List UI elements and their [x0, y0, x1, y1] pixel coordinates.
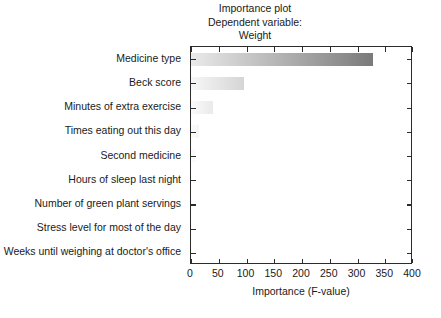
y-axis-tick [191, 132, 196, 133]
y-axis-label: Hours of sleep last night [0, 174, 186, 185]
y-axis-tick [407, 180, 412, 181]
y-axis-labels: Medicine typeBeck scoreMinutes of extra … [0, 46, 186, 264]
chart-title-block: Importance plot Dependent variable: Weig… [190, 2, 320, 43]
bars-layer [191, 47, 411, 263]
y-axis-tick [191, 156, 196, 157]
chart-title: Importance plot [190, 2, 320, 16]
x-axis-tick [274, 259, 275, 264]
bar-row [191, 47, 411, 71]
y-axis-tick [407, 253, 412, 254]
x-axis-tick [385, 47, 386, 52]
y-axis-label: Minutes of extra exercise [0, 101, 186, 112]
y-axis-tick [407, 204, 412, 205]
bar [191, 53, 373, 66]
y-axis-label: Beck score [0, 77, 186, 88]
y-axis-tick [191, 204, 196, 205]
x-axis-tick [358, 47, 359, 52]
x-axis-tick [219, 259, 220, 264]
chart-subtitle-value: Weight [190, 29, 320, 43]
y-axis-tick [407, 108, 412, 109]
y-axis-tick [191, 229, 196, 230]
y-axis-label: Second medicine [0, 150, 186, 161]
y-axis-tick [407, 229, 412, 230]
x-axis-tick [219, 47, 220, 52]
x-axis-title: Importance (F-value) [190, 285, 412, 298]
x-axis-tick [274, 47, 275, 52]
y-axis-label: Stress level for most of the day [0, 222, 186, 233]
x-axis-tick [412, 47, 413, 52]
plot-area [190, 46, 412, 264]
y-axis-tick [407, 132, 412, 133]
bar-row [191, 144, 411, 168]
x-axis-tick [358, 259, 359, 264]
x-axis-tick [191, 47, 192, 52]
y-axis-tick [191, 108, 196, 109]
bar-row [191, 71, 411, 95]
x-axis-tick-label: 400 [392, 267, 432, 279]
y-axis-tick [191, 83, 196, 84]
x-axis-tick [412, 259, 413, 264]
x-axis-tick [247, 259, 248, 264]
y-axis-tick [191, 253, 196, 254]
bar-row [191, 95, 411, 119]
x-axis-tick [302, 259, 303, 264]
x-axis-tick [247, 47, 248, 52]
x-axis-tick-labels: 050100150200250300350400 [190, 267, 412, 281]
x-axis-tick [330, 259, 331, 264]
y-axis-tick [191, 180, 196, 181]
importance-plot-figure: Importance plot Dependent variable: Weig… [0, 0, 441, 318]
y-axis-label: Medicine type [0, 53, 186, 64]
bar [191, 77, 244, 90]
y-axis-tick [407, 83, 412, 84]
y-axis-label: Times eating out this day [0, 125, 186, 136]
x-axis-tick [385, 259, 386, 264]
x-axis-tick [302, 47, 303, 52]
y-axis-tick [191, 59, 196, 60]
y-axis-label: Weeks until weighing at doctor's office [0, 246, 186, 257]
x-axis-tick [330, 47, 331, 52]
y-axis-tick [407, 59, 412, 60]
y-axis-label: Number of green plant servings [0, 198, 186, 209]
x-axis-tick [191, 259, 192, 264]
y-axis-tick [407, 156, 412, 157]
chart-subtitle: Dependent variable: [190, 16, 320, 30]
bar-row [191, 120, 411, 144]
